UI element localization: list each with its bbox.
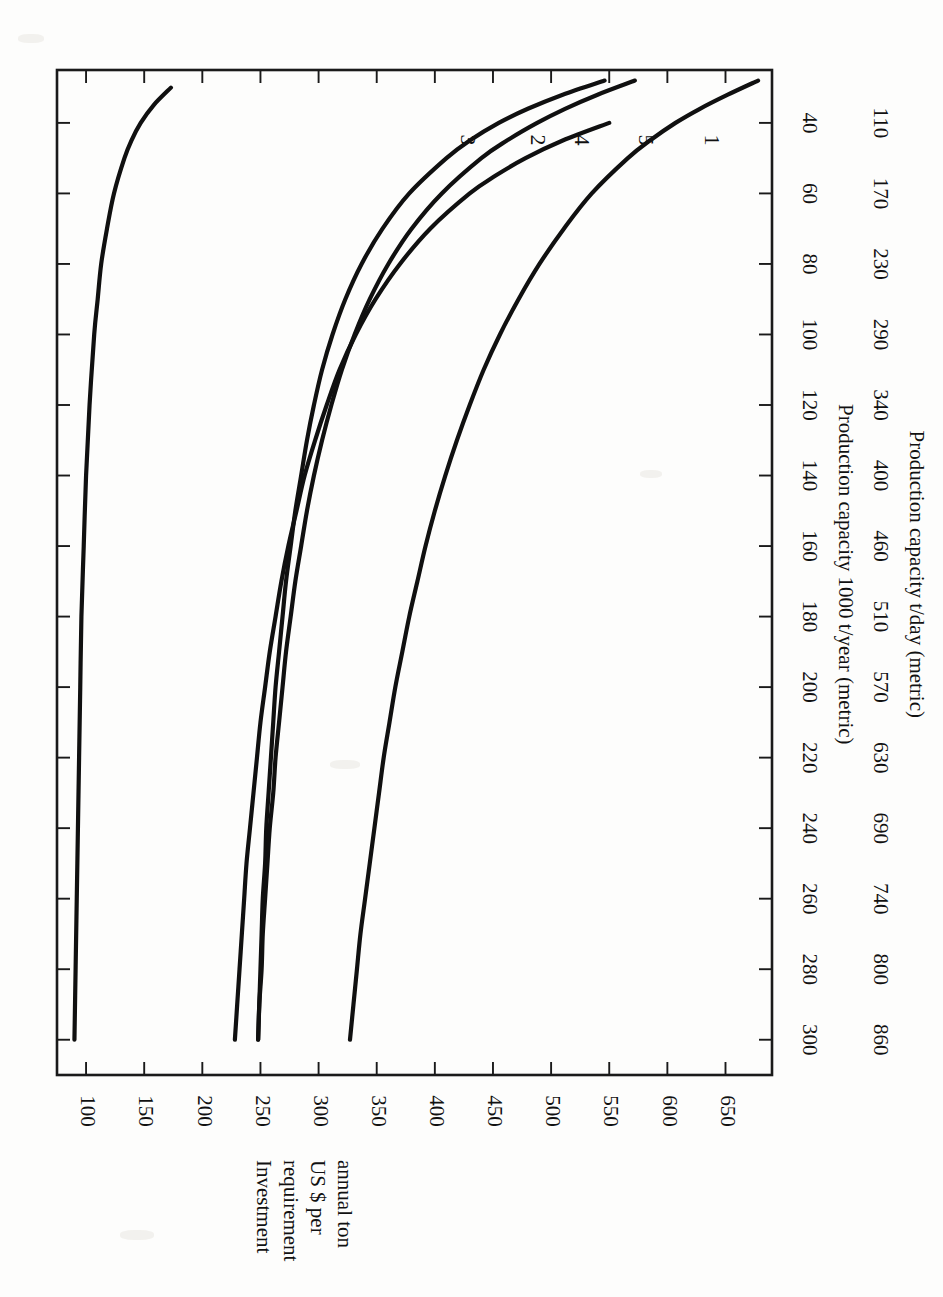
y-ticklabel-350: 350: [367, 1095, 391, 1127]
investment-requirement-chart: 4011060170802301002901203401404001604601…: [0, 0, 943, 1297]
x-ticklabel-secondary-570: 570: [869, 671, 893, 703]
x-ticklabel-120: 120: [798, 389, 822, 421]
x-ticklabel-180: 180: [798, 601, 822, 633]
x-ticklabel-220: 220: [798, 742, 822, 774]
y-ticklabel-150: 150: [134, 1095, 158, 1127]
x-ticklabel-secondary-740: 740: [869, 883, 893, 915]
x-ticklabel-40: 40: [798, 112, 822, 133]
plot-group: [57, 70, 772, 1075]
x-ticklabel-secondary-690: 690: [869, 812, 893, 844]
x-ticklabel-100: 100: [798, 319, 822, 351]
x-ticklabel-secondary-290: 290: [869, 319, 893, 351]
x-ticklabel-secondary-400: 400: [869, 460, 893, 492]
y-ticklabel-600: 600: [658, 1095, 682, 1127]
x-ticklabel-80: 80: [798, 253, 822, 274]
x-axis-title: Production capacity 1000 t/year (metric): [834, 404, 858, 745]
x-ticklabel-140: 140: [798, 460, 822, 492]
x-ticklabel-secondary-110: 110: [869, 108, 893, 139]
x-ticklabel-300: 300: [798, 1024, 822, 1056]
y-ticklabel-500: 500: [541, 1095, 565, 1127]
curve-2: [258, 81, 604, 1040]
x-ticklabel-secondary-340: 340: [869, 389, 893, 421]
y-axis-title-line-1: Investment: [252, 1160, 276, 1253]
plot-frame: [57, 70, 772, 1075]
x-ticklabel-secondary-510: 510: [869, 601, 893, 633]
curve-label-5: 5: [634, 135, 659, 146]
x-ticklabel-280: 280: [798, 953, 822, 985]
curve-label-4: 4: [570, 135, 595, 146]
x-axis-title-secondary: Production capacity t/day (metric): [905, 431, 929, 718]
x-ticklabel-260: 260: [798, 883, 822, 915]
curve-label-2: 2: [526, 135, 551, 146]
paper-speck: [120, 1230, 154, 1240]
x-ticklabel-240: 240: [798, 812, 822, 844]
curve-4: [258, 81, 635, 1040]
x-ticklabel-secondary-860: 860: [869, 1024, 893, 1056]
x-ticklabel-secondary-800: 800: [869, 953, 893, 985]
y-ticklabel-250: 250: [251, 1095, 275, 1127]
y-ticklabel-100: 100: [76, 1095, 100, 1127]
x-ticklabel-160: 160: [798, 530, 822, 562]
x-ticklabel-secondary-170: 170: [869, 178, 893, 210]
paper-speck: [18, 34, 44, 43]
curve-label-3: 3: [456, 135, 481, 146]
y-ticklabel-450: 450: [483, 1095, 507, 1127]
x-ticklabel-200: 200: [798, 671, 822, 703]
x-ticklabel-60: 60: [798, 183, 822, 204]
curve-1: [74, 88, 170, 1040]
y-ticklabel-400: 400: [425, 1095, 449, 1127]
x-ticklabel-secondary-630: 630: [869, 742, 893, 774]
y-axis-title-line-2: requirement: [279, 1160, 303, 1262]
y-ticklabel-300: 300: [309, 1095, 333, 1127]
y-ticklabel-650: 650: [716, 1095, 740, 1127]
y-axis-title-line-3: US $ per: [306, 1160, 330, 1235]
x-ticklabel-secondary-230: 230: [869, 248, 893, 280]
paper-speck: [330, 760, 360, 769]
x-ticklabel-secondary-460: 460: [869, 530, 893, 562]
curve-label-1: 1: [700, 135, 725, 146]
curve-5: [235, 123, 609, 1040]
y-ticklabel-550: 550: [599, 1095, 623, 1127]
y-axis-title-line-4: annual ton: [333, 1160, 357, 1249]
chart-page: 4011060170802301002901203401404001604601…: [0, 0, 943, 1297]
y-ticklabel-200: 200: [193, 1095, 217, 1127]
curve-3: [350, 81, 758, 1040]
paper-speck: [640, 470, 662, 478]
